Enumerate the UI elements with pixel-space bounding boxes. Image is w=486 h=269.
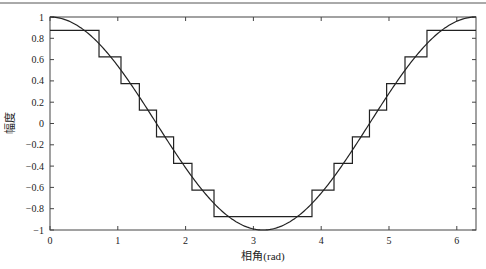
y-tick-label: −0.4 xyxy=(26,161,44,172)
plot-frame xyxy=(50,17,476,230)
x-tick-label: 6 xyxy=(454,235,459,246)
y-tick-label: 0.2 xyxy=(32,97,45,108)
axis-ticks xyxy=(50,17,476,230)
y-tick-label: 0.8 xyxy=(32,33,45,44)
cosine-series xyxy=(50,17,476,230)
tick-labels: 012345610.80.60.40.20−0.2−0.4−0.6−0.8−1 xyxy=(26,12,459,247)
y-tick-label: −1 xyxy=(33,225,44,236)
y-tick-label: 0 xyxy=(39,118,44,129)
quantized-cosine-chart: 012345610.80.60.40.20−0.2−0.4−0.6−0.8−1 … xyxy=(0,0,486,269)
y-axis-label: 幅度 xyxy=(3,112,16,134)
y-tick-label: −0.8 xyxy=(26,203,44,214)
x-tick-label: 2 xyxy=(183,235,188,246)
y-tick-label: 0.4 xyxy=(32,75,45,86)
y-tick-label: −0.6 xyxy=(26,182,44,193)
y-tick-label: −0.2 xyxy=(26,139,44,150)
x-tick-label: 1 xyxy=(115,235,120,246)
y-tick-label: 1 xyxy=(39,12,44,23)
x-axis-label: 相角(rad) xyxy=(241,250,285,263)
x-tick-label: 0 xyxy=(48,235,53,246)
x-tick-label: 5 xyxy=(386,235,391,246)
chart-container: 012345610.80.60.40.20−0.2−0.4−0.6−0.8−1 … xyxy=(0,0,486,269)
y-tick-label: 0.6 xyxy=(32,54,45,65)
x-tick-label: 4 xyxy=(319,235,324,246)
x-tick-label: 3 xyxy=(251,235,256,246)
quantized-step-series xyxy=(50,30,476,216)
